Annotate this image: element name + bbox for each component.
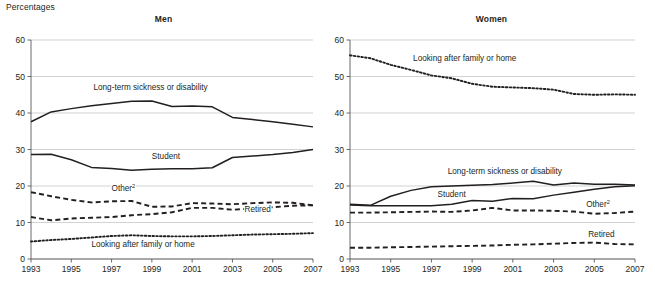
ytick-label-40: 40 [335, 108, 345, 118]
chart-panel-men: Men 010203040506019931995199719992001200… [0, 0, 327, 285]
xtick-label-2007: 2007 [626, 264, 645, 274]
series-label-women-3: Other2 [586, 199, 610, 209]
xtick-label-1995: 1995 [62, 264, 81, 274]
xtick-label-1999: 1999 [142, 264, 161, 274]
xtick-label-2007: 2007 [304, 264, 323, 274]
ytick-label-0: 0 [20, 254, 25, 264]
ytick-label-30: 30 [335, 145, 345, 155]
series-label-men-1: Student [152, 152, 181, 161]
ytick-label-60: 60 [16, 35, 26, 45]
series-label-men-0: Long-term sickness or disability [93, 83, 208, 92]
xtick-label-2005: 2005 [585, 264, 604, 274]
series-label-men-2: Other2 [112, 183, 136, 193]
ytick-label-0: 0 [339, 254, 344, 264]
xtick-label-2003: 2003 [544, 264, 563, 274]
series-label-men-3: Retired [245, 205, 272, 214]
line-chart-women: 0102030405060199319951997199920012003200… [328, 0, 655, 285]
ytick-label-20: 20 [335, 181, 345, 191]
ytick-label-40: 40 [16, 108, 26, 118]
xtick-label-1993: 1993 [341, 264, 360, 274]
series-label-women-2: Student [438, 190, 467, 199]
chart-panel-women: Women 0102030405060199319951997199920012… [328, 0, 655, 285]
ytick-label-10: 10 [16, 218, 26, 228]
series-label-women-1: Long-term sickness or disability [448, 167, 563, 176]
series-line-women-4 [350, 243, 635, 248]
xtick-label-2003: 2003 [223, 264, 242, 274]
ytick-label-30: 30 [16, 145, 26, 155]
xtick-label-2005: 2005 [263, 264, 282, 274]
series-label-women-4: Retired [588, 230, 615, 239]
xtick-label-1997: 1997 [422, 264, 441, 274]
series-label-women-0: Looking after family or home [413, 54, 517, 63]
series-line-men-0 [31, 101, 313, 127]
xtick-label-1993: 1993 [22, 264, 41, 274]
xtick-label-2001: 2001 [503, 264, 522, 274]
ytick-label-50: 50 [335, 72, 345, 82]
xtick-label-1997: 1997 [102, 264, 121, 274]
line-chart-men: 0102030405060199319951997199920012003200… [0, 0, 327, 285]
xtick-label-1999: 1999 [463, 264, 482, 274]
ytick-label-60: 60 [335, 35, 345, 45]
xtick-label-2001: 2001 [183, 264, 202, 274]
ytick-label-10: 10 [335, 218, 345, 228]
xtick-label-1995: 1995 [381, 264, 400, 274]
ytick-label-20: 20 [16, 181, 26, 191]
series-label-men-4: Looking after family or home [91, 240, 195, 249]
figure-root: Percentages Men 010203040506019931995199… [0, 0, 655, 285]
ytick-label-50: 50 [16, 72, 26, 82]
